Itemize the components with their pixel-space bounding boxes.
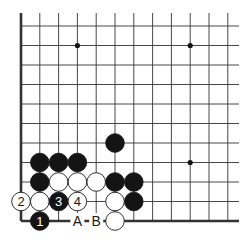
stone-body <box>49 153 68 172</box>
star-point <box>75 43 80 48</box>
stone-body <box>31 173 50 192</box>
stone-body <box>125 173 144 192</box>
stone-body <box>31 192 50 211</box>
black-stone <box>125 173 144 192</box>
star-point <box>188 160 193 165</box>
move-number: 3 <box>55 194 62 209</box>
black-stone <box>31 153 50 172</box>
move-number: 4 <box>74 194 81 209</box>
point-label-b: B <box>92 213 101 229</box>
stone-body <box>49 173 68 192</box>
stone-body <box>68 173 87 192</box>
move-number: 2 <box>17 194 24 209</box>
white-stone-4: 4 <box>68 192 87 211</box>
white-stone <box>106 192 125 211</box>
black-stone <box>68 153 87 172</box>
white-stone <box>87 173 106 192</box>
stone-body <box>106 134 125 153</box>
white-stone <box>106 212 125 231</box>
star-point <box>188 43 193 48</box>
stone-body <box>87 173 106 192</box>
move-number: 1 <box>36 214 43 229</box>
go-board-diagram: 2341 AB <box>0 0 247 242</box>
white-stone-2: 2 <box>12 192 31 211</box>
black-stone <box>106 134 125 153</box>
stone-body <box>106 212 125 231</box>
black-stone <box>125 192 144 211</box>
black-stone <box>106 173 125 192</box>
stone-body <box>125 192 144 211</box>
white-stone <box>49 173 68 192</box>
black-stone-3: 3 <box>49 192 68 211</box>
white-stone <box>31 192 50 211</box>
stone-body <box>106 192 125 211</box>
white-stone <box>68 173 87 192</box>
point-label-a: A <box>73 213 83 229</box>
black-stone-1: 1 <box>31 212 50 231</box>
stone-body <box>106 173 125 192</box>
stone-body <box>31 153 50 172</box>
black-stone <box>31 173 50 192</box>
black-stone <box>49 153 68 172</box>
stone-body <box>68 153 87 172</box>
